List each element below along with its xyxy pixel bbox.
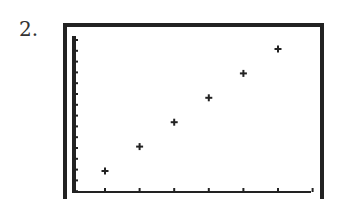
plus-marker-icon	[240, 70, 247, 77]
plus-marker-icon	[171, 119, 178, 126]
plus-marker-icon	[136, 143, 143, 150]
scatter-plot	[0, 0, 345, 199]
plus-marker-icon	[205, 94, 212, 101]
data-points	[102, 46, 282, 175]
plus-marker-icon	[102, 168, 109, 175]
plus-marker-icon	[275, 46, 282, 53]
